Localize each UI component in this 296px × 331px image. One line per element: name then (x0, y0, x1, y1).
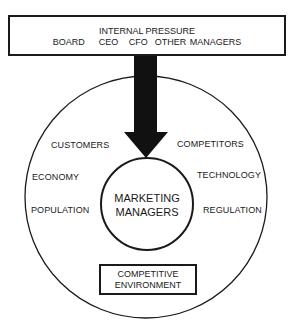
internal-pressure-box: INTERNAL PRESSURE BOARD CEO CFO OTHER MA… (8, 15, 286, 56)
competitive-environment-box: COMPETITIVE ENVIRONMENT (99, 264, 197, 295)
internal-pressure-members: BOARD CEO CFO OTHER MANAGERS (10, 37, 284, 47)
factor-population: POPULATION (31, 205, 89, 216)
environment-line2: ENVIRONMENT (101, 280, 195, 291)
factor-customers: CUSTOMERS (51, 140, 109, 151)
factor-technology: TECHNOLOGY (197, 170, 261, 181)
pressure-arrow-icon (124, 54, 168, 158)
marketing-managers-line2: MANAGERS (114, 205, 179, 219)
factor-regulation: REGULATION (203, 205, 262, 216)
internal-pressure-title: INTERNAL PRESSURE (10, 26, 284, 36)
factor-competitors: COMPETITORS (177, 139, 244, 150)
factor-economy: ECONOMY (32, 172, 79, 183)
marketing-managers-label: MARKETING MANAGERS (114, 191, 179, 219)
environment-line1: COMPETITIVE (101, 269, 195, 280)
marketing-managers-line1: MARKETING (114, 191, 179, 205)
